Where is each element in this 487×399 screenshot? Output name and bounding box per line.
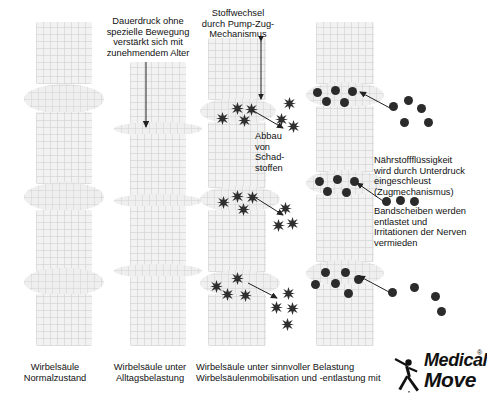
nutrient-particle-dot: [321, 268, 330, 277]
nutrient-particle-dot: [315, 177, 324, 186]
medical-move-logo[interactable]: Medical Move ®: [394, 350, 482, 396]
waste-particle-star: [282, 287, 295, 300]
stick-figure-icon: [394, 355, 428, 393]
nutrient-particle-dot: [350, 177, 359, 186]
vertebra: [316, 194, 374, 262]
caption-alltagsbelastung: Wirbelsäule unter Alltagsbelastung: [100, 362, 200, 385]
waste-particle-star: [221, 288, 234, 301]
nutrient-particle-dot: [313, 88, 322, 97]
waste-particle-star: [216, 112, 229, 125]
nutrient-particle-dot: [437, 307, 446, 316]
nutrient-particle-dot: [382, 197, 391, 206]
intervertebral-disc: [24, 84, 104, 114]
vertebra: [36, 112, 92, 184]
vertebra: [130, 134, 186, 196]
nutrient-particle-dot: [354, 275, 363, 284]
waste-particle-star: [239, 289, 252, 302]
vertebra: [208, 210, 266, 272]
vertebra: [208, 38, 266, 100]
vertebra: [36, 22, 92, 84]
annotation-abbau-schadstoffe: Abbau von Schad- stoffen: [255, 131, 307, 173]
registered-trademark-icon: ®: [477, 349, 482, 356]
nutrient-particle-dot: [404, 96, 413, 105]
logo-word-move: Move: [424, 370, 487, 390]
nutrient-particle-dot: [340, 98, 349, 107]
nutrient-particle-dot: [344, 289, 353, 298]
waste-particle-star: [283, 97, 296, 110]
caption-sinnvolle-belastung: Wirbelsäule unter sinnvoller Belastung W…: [196, 362, 396, 385]
nutrient-particle-dot: [341, 268, 350, 277]
waste-particle-star: [279, 202, 292, 215]
vertebra: [316, 22, 374, 84]
nutrient-particle-dot: [342, 188, 351, 197]
vertebra: [316, 106, 374, 172]
nutrient-particle-dot: [333, 175, 342, 184]
nutrient-particle-dot: [322, 97, 331, 106]
intervertebral-disc: [24, 268, 104, 296]
waste-particle-star: [281, 318, 294, 331]
annotation-dauerdruck: Dauerdruck ohne spezielle Bewegung verst…: [96, 16, 200, 58]
annotation-bandscheiben: Bandscheiben werden entlastet und Irrita…: [374, 206, 484, 248]
waste-particle-star: [217, 196, 230, 209]
vertebra: [208, 294, 266, 346]
vertebra: [130, 276, 186, 346]
waste-particle-star: [238, 114, 251, 127]
nutrient-particle-dot: [410, 197, 419, 206]
nutrient-particle-dot: [410, 283, 419, 292]
waste-particle-star: [270, 301, 283, 314]
nutrient-particle-dot: [323, 187, 332, 196]
waste-particle-star: [237, 203, 250, 216]
vertebra: [130, 62, 186, 124]
logo-wordmark: Medical Move: [424, 350, 487, 390]
annotation-naehrstoffluessigkeit: Nährstoffflüssigkeit wird durch Unterdru…: [374, 155, 482, 197]
intervertebral-disc: [24, 182, 104, 212]
nutrient-particle-dot: [424, 118, 433, 127]
nutrient-particle-dot: [417, 104, 426, 113]
vertebra: [36, 210, 92, 272]
nutrient-particle-dot: [331, 86, 340, 95]
annotation-stoffwechsel: Stoffwechsel durch Pump-Zug- Mechanismus: [192, 8, 284, 40]
vertebra: [36, 294, 92, 346]
waste-particle-star: [286, 217, 299, 230]
nutrient-particle-dot: [331, 279, 340, 288]
nutrient-particle-dot: [389, 102, 398, 111]
waste-particle-star: [231, 272, 244, 285]
waste-particle-star: [231, 190, 244, 203]
nutrient-particle-dot: [311, 280, 320, 289]
vertebra: [130, 206, 186, 268]
nutrient-particle-dot: [348, 87, 357, 96]
nutrient-particle-dot: [431, 292, 440, 301]
nutrient-particle-dot: [388, 288, 397, 297]
waste-particle-star: [286, 302, 299, 315]
nutrient-particle-dot: [400, 118, 409, 127]
caption-normalzustand: Wirbelsäule Normalzustand: [10, 362, 100, 385]
waste-particle-star: [272, 219, 285, 232]
